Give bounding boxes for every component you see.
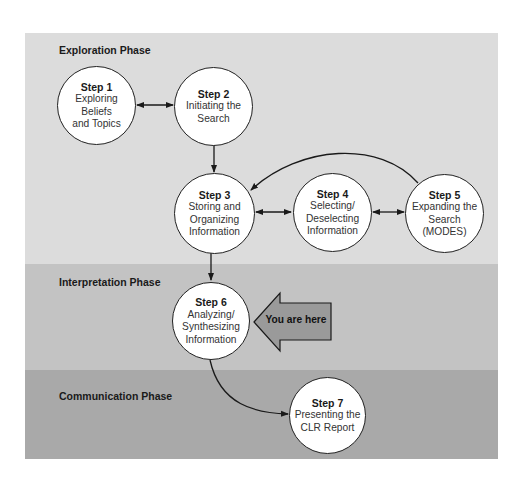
step-6-node: Step 6 Analyzing/ Synthesizing Informati…	[172, 282, 250, 360]
connector-step6-step7	[210, 360, 288, 414]
step-3-desc: Storing and Organizing Information	[188, 201, 240, 239]
step-3-node: Step 3 Storing and Organizing Informatio…	[174, 173, 255, 254]
step-4-desc: Selecting/ Deselecting Information	[306, 200, 359, 238]
step-2-node: Step 2 Initiating the Search	[174, 67, 253, 146]
step-5-desc: Expanding the Search (MODES)	[412, 201, 477, 239]
step-3-title: Step 3	[199, 189, 231, 202]
step-2-desc: Initiating the Search	[186, 100, 241, 125]
step-1-title: Step 1	[81, 81, 113, 94]
step-5-title: Step 5	[429, 189, 461, 202]
step-7-title: Step 7	[312, 397, 344, 410]
step-4-node: Step 4 Selecting/ Deselecting Informatio…	[293, 173, 372, 252]
step-7-desc: Presenting the CLR Report	[295, 409, 361, 434]
step-7-node: Step 7 Presenting the CLR Report	[289, 377, 366, 454]
step-6-desc: Analyzing/ Synthesizing Information	[182, 309, 240, 347]
step-1-desc: Exploring Beliefs and Topics	[72, 93, 121, 131]
step-4-title: Step 4	[317, 188, 349, 201]
step-5-node: Step 5 Expanding the Search (MODES)	[405, 174, 484, 253]
step-2-title: Step 2	[198, 88, 230, 101]
you-are-here-label: You are here	[263, 314, 329, 325]
step-6-title: Step 6	[195, 296, 227, 309]
step-1-node: Step 1 Exploring Beliefs and Topics	[57, 66, 136, 145]
